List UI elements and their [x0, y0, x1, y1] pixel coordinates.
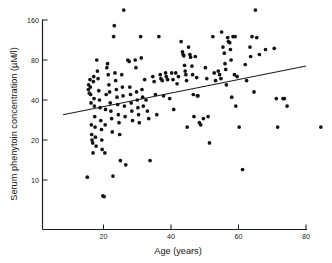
- data-point: [183, 69, 187, 73]
- y-axis-ticks: [43, 20, 48, 180]
- data-point: [243, 63, 247, 67]
- data-point: [94, 135, 98, 139]
- data-point: [104, 93, 108, 97]
- data-point: [113, 71, 117, 75]
- data-point: [160, 79, 164, 83]
- data-point: [237, 125, 241, 129]
- data-point: [92, 80, 96, 84]
- data-point: [91, 141, 95, 145]
- data-point: [179, 40, 183, 44]
- data-point: [185, 125, 189, 129]
- data-point: [111, 174, 115, 178]
- y-tick-label: 160: [27, 16, 39, 25]
- data-point: [177, 75, 181, 79]
- data-point: [104, 108, 108, 112]
- data-point: [139, 35, 143, 39]
- data-point: [131, 119, 135, 123]
- data-point: [146, 109, 150, 113]
- data-point: [89, 101, 93, 105]
- data-point: [206, 115, 210, 119]
- data-point: [117, 121, 121, 125]
- data-point: [108, 90, 112, 94]
- data-point: [211, 35, 215, 39]
- y-axis-title: Serum phenytoin concentration (µM/l): [9, 47, 19, 200]
- data-point: [105, 66, 109, 70]
- data-point: [103, 151, 107, 155]
- data-point: [106, 62, 110, 66]
- data-point: [129, 93, 133, 97]
- data-point: [109, 109, 113, 113]
- data-point: [184, 73, 188, 77]
- data-point: [225, 83, 229, 87]
- data-point: [100, 128, 104, 132]
- x-tick-label: 80: [302, 232, 310, 241]
- data-point: [120, 73, 124, 77]
- x-axis-ticks: [104, 225, 307, 230]
- data-point: [193, 55, 197, 59]
- data-point: [124, 163, 128, 167]
- data-point: [133, 58, 137, 62]
- data-point: [187, 45, 191, 49]
- scatter-plot-svg: 160 80 40 20 10 20 40 60 80 Age (years) …: [0, 0, 332, 263]
- data-point: [121, 85, 125, 89]
- data-point: [185, 79, 189, 83]
- data-point: [191, 93, 195, 97]
- data-point: [134, 66, 138, 70]
- data-point: [94, 144, 98, 148]
- data-point: [123, 104, 127, 108]
- data-point: [96, 77, 100, 81]
- data-point: [88, 85, 92, 89]
- chart-figure: 160 80 40 20 10 20 40 60 80 Age (years) …: [0, 0, 332, 263]
- data-point: [220, 30, 224, 34]
- data-point: [90, 123, 94, 127]
- data-point: [137, 121, 141, 125]
- data-point: [249, 55, 253, 59]
- data-point: [92, 75, 96, 79]
- data-point: [106, 73, 110, 77]
- data-point: [157, 35, 161, 39]
- data-point: [136, 106, 140, 110]
- data-point: [110, 130, 114, 134]
- data-point: [172, 108, 176, 112]
- data-point: [229, 58, 233, 62]
- data-point: [91, 151, 95, 155]
- data-point: [168, 97, 172, 101]
- data-point: [103, 123, 107, 127]
- data-point: [174, 71, 178, 75]
- data-point: [139, 56, 143, 60]
- data-point: [189, 55, 193, 59]
- data-point: [102, 195, 106, 199]
- data-point: [112, 24, 116, 28]
- data-point: [223, 62, 227, 66]
- data-point: [170, 71, 174, 75]
- y-tick-label: 20: [31, 136, 39, 145]
- data-point: [212, 71, 216, 75]
- data-point: [175, 82, 179, 86]
- data-point: [199, 123, 203, 127]
- data-point: [258, 53, 262, 57]
- data-point: [130, 109, 134, 113]
- data-point: [93, 104, 97, 108]
- data-point: [216, 69, 220, 73]
- data-point: [141, 104, 145, 108]
- data-point: [229, 48, 233, 52]
- x-tick-label: 40: [167, 232, 175, 241]
- data-point: [254, 8, 258, 12]
- data-point: [128, 85, 132, 89]
- data-point: [143, 78, 147, 82]
- data-point: [152, 80, 156, 84]
- data-point: [92, 97, 96, 101]
- data-point: [221, 45, 225, 49]
- data-point: [166, 78, 170, 82]
- data-point: [123, 115, 127, 119]
- x-tick-label: 20: [100, 232, 108, 241]
- data-point: [248, 45, 252, 49]
- data-point: [276, 125, 280, 129]
- data-point: [97, 89, 101, 93]
- data-point: [108, 101, 112, 105]
- data-point: [218, 73, 222, 77]
- data-point: [95, 58, 99, 62]
- x-tick-label: 60: [235, 232, 243, 241]
- data-point: [88, 78, 92, 82]
- data-point: [264, 48, 268, 52]
